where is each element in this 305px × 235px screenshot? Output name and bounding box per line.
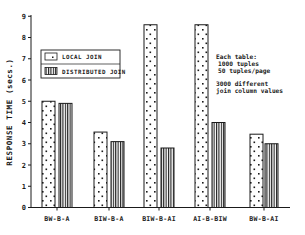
bar-distributed-join bbox=[59, 103, 72, 207]
bar-distributed-join bbox=[161, 148, 174, 208]
bar-local-join bbox=[42, 101, 55, 207]
bar-local-join bbox=[250, 134, 263, 207]
stripes-swatch-icon bbox=[45, 68, 57, 75]
dots-swatch-icon bbox=[45, 53, 57, 60]
bar-local-join bbox=[195, 25, 208, 208]
legend-item-distributed-join: DISTRIBUTED JOIN bbox=[45, 68, 126, 75]
y-tick-label: 0 bbox=[22, 204, 26, 212]
y-axis-title: RESPONSE TIME (secs.) bbox=[5, 58, 14, 165]
x-tick-label: BIW-B-A bbox=[94, 215, 124, 223]
x-tick-label: AI-B-BIW bbox=[193, 215, 227, 223]
x-tick-label: BW-B-AI bbox=[249, 215, 279, 223]
legend-label-distributed: DISTRIBUTED JOIN bbox=[62, 69, 126, 75]
bar-distributed-join bbox=[111, 142, 124, 208]
note-line-5: join column values bbox=[216, 87, 283, 95]
legend-item-local-join: LOCAL JOIN bbox=[45, 53, 102, 60]
y-tick-label: 3 bbox=[22, 140, 26, 148]
note-line-1: Each table: bbox=[216, 53, 257, 60]
x-tick-label: BW-B-A bbox=[44, 215, 69, 223]
y-tick-label: 7 bbox=[22, 55, 26, 63]
bar-distributed-join bbox=[212, 123, 225, 208]
y-tick-label: 2 bbox=[22, 162, 26, 170]
bar-group bbox=[250, 134, 278, 207]
y-tick-label: 4 bbox=[22, 119, 26, 127]
y-ticks: 0123456789 bbox=[22, 13, 31, 212]
note-line-3: 50 tuples/page bbox=[218, 67, 270, 75]
x-tick-labels: BW-B-ABIW-B-ABIW-B-AIAI-B-BIWBW-B-AI bbox=[44, 208, 278, 224]
annotation-note: Each table: 1000 tuples 50 tuples/page 3… bbox=[216, 53, 283, 95]
y-tick-label: 5 bbox=[22, 98, 26, 106]
x-axis: BW-B-ABIW-B-ABIW-B-AIAI-B-BIWBW-B-AI bbox=[31, 208, 290, 224]
bar-group bbox=[94, 132, 124, 207]
note-line-4: 3000 different bbox=[216, 80, 268, 87]
y-tick-label: 8 bbox=[22, 34, 26, 42]
y-tick-label: 6 bbox=[22, 77, 26, 85]
x-tick-label: BIW-B-AI bbox=[142, 215, 176, 223]
legend-label-local: LOCAL JOIN bbox=[62, 54, 102, 60]
bar-chart: 0123456789 RESPONSE TIME (secs.) BW-B-AB… bbox=[0, 0, 305, 235]
legend: LOCAL JOIN DISTRIBUTED JOIN bbox=[41, 50, 126, 78]
y-tick-label: 9 bbox=[22, 13, 26, 21]
bar-local-join bbox=[144, 25, 157, 208]
bar-distributed-join bbox=[265, 144, 278, 208]
bar-group bbox=[144, 25, 174, 208]
bar-local-join bbox=[94, 132, 107, 207]
y-tick-label: 1 bbox=[22, 183, 26, 191]
bar-group bbox=[42, 101, 72, 207]
y-axis: 0123456789 RESPONSE TIME (secs.) bbox=[5, 13, 31, 212]
